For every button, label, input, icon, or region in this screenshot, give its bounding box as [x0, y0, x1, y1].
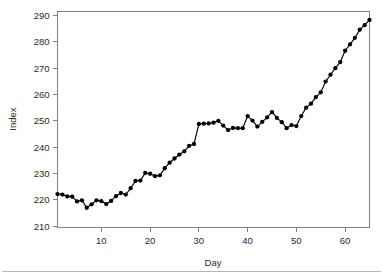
- data-point: [167, 161, 171, 165]
- data-point: [328, 73, 332, 77]
- data-point: [226, 128, 230, 132]
- data-point: [55, 192, 59, 196]
- data-point: [187, 144, 191, 148]
- data-point: [109, 199, 113, 203]
- data-point: [133, 179, 137, 183]
- data-point: [114, 194, 118, 198]
- data-point: [348, 42, 352, 46]
- y-axis-title: Index: [7, 107, 18, 130]
- data-point: [202, 122, 206, 126]
- x-tick-label: 20: [145, 235, 156, 246]
- y-tick-label: 280: [34, 36, 50, 47]
- data-point: [80, 198, 84, 202]
- data-point: [284, 126, 288, 130]
- data-point: [236, 126, 240, 130]
- y-tick-label: 250: [34, 115, 50, 126]
- data-point: [89, 202, 93, 206]
- data-point: [280, 120, 284, 124]
- data-point: [250, 118, 254, 122]
- data-point: [158, 173, 162, 177]
- x-tick-label: 10: [96, 235, 107, 246]
- y-tick-label: 240: [34, 142, 50, 153]
- line-chart-svg: 210220230240250260270280290 102030405060…: [0, 0, 383, 277]
- data-point: [358, 28, 362, 32]
- data-point: [143, 171, 147, 175]
- data-point: [206, 121, 210, 125]
- data-point: [299, 114, 303, 118]
- data-point: [94, 198, 98, 202]
- y-tick-label: 260: [34, 89, 50, 100]
- series-line-index: [58, 20, 370, 208]
- data-point: [148, 172, 152, 176]
- data-point: [138, 178, 142, 182]
- data-point: [192, 142, 196, 146]
- data-point: [241, 126, 245, 130]
- x-tick-label: 40: [242, 235, 253, 246]
- data-point: [294, 124, 298, 128]
- data-point: [353, 36, 357, 40]
- data-point: [343, 49, 347, 53]
- data-point: [153, 174, 157, 178]
- x-axis-ticks: 102030405060: [96, 228, 350, 246]
- plot-frame: [58, 12, 370, 228]
- y-tick-label: 230: [34, 168, 50, 179]
- y-tick-label: 220: [34, 194, 50, 205]
- data-point: [119, 191, 123, 195]
- data-point: [124, 192, 128, 196]
- y-tick-label: 270: [34, 63, 50, 74]
- data-point: [197, 122, 201, 126]
- series-markers-index: [55, 18, 371, 210]
- data-point: [265, 115, 269, 119]
- data-point: [323, 79, 327, 83]
- x-axis-title: Day: [205, 257, 222, 268]
- data-point: [211, 121, 215, 125]
- y-tick-label: 210: [34, 221, 50, 232]
- data-point: [104, 202, 108, 206]
- data-point: [314, 95, 318, 99]
- x-tick-label: 30: [194, 235, 205, 246]
- data-point: [70, 195, 74, 199]
- data-point: [367, 18, 371, 22]
- data-point: [182, 149, 186, 153]
- x-tick-label: 50: [291, 235, 302, 246]
- data-point: [260, 120, 264, 124]
- data-point: [319, 90, 323, 94]
- data-point: [275, 116, 279, 120]
- data-point: [177, 152, 181, 156]
- data-point: [338, 60, 342, 64]
- data-point: [333, 66, 337, 70]
- data-point: [362, 23, 366, 27]
- data-point: [75, 199, 79, 203]
- data-point: [289, 123, 293, 127]
- data-point: [255, 124, 259, 128]
- data-point: [231, 126, 235, 130]
- x-tick-label: 60: [340, 235, 351, 246]
- y-axis-ticks: 210220230240250260270280290: [34, 10, 58, 232]
- chart-figure: 210220230240250260270280290 102030405060…: [0, 0, 383, 277]
- data-point: [216, 119, 220, 123]
- data-point: [99, 199, 103, 203]
- data-point: [60, 192, 64, 196]
- y-tick-label: 290: [34, 10, 50, 21]
- data-point: [65, 194, 69, 198]
- data-point: [221, 123, 225, 127]
- data-point: [163, 166, 167, 170]
- data-point: [270, 110, 274, 114]
- data-point: [128, 186, 132, 190]
- data-point: [85, 206, 89, 210]
- data-point: [309, 102, 313, 106]
- data-point: [245, 114, 249, 118]
- data-point: [304, 106, 308, 110]
- data-point: [172, 156, 176, 160]
